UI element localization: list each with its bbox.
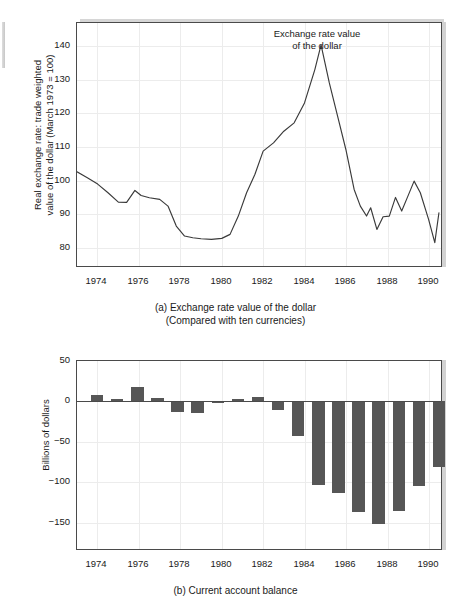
panel-a-line-series bbox=[77, 23, 441, 266]
bar-1986 bbox=[352, 401, 364, 512]
bar-1987 bbox=[372, 401, 384, 524]
panel-a-plot-area bbox=[76, 22, 442, 267]
panel-a-annotation-line1: Exchange rate value bbox=[274, 28, 361, 39]
bar-1984 bbox=[312, 401, 324, 485]
panel-a-xtick-label: 1984 bbox=[281, 276, 327, 286]
panel-b-ytick-label: 0 bbox=[36, 395, 70, 405]
bar-1985 bbox=[332, 401, 344, 493]
panel-b: Billions of dollars 50 0 −50 bbox=[0, 340, 471, 610]
bar-1975 bbox=[131, 387, 143, 401]
panel-a-xtick-label: 1978 bbox=[156, 276, 202, 286]
panel-a: Real exchange rate: trade weighted value… bbox=[0, 0, 471, 340]
bar-1977 bbox=[171, 401, 183, 412]
panel-a-xtick-label: 1976 bbox=[115, 276, 161, 286]
bar-1982 bbox=[272, 401, 284, 410]
panel-b-xtick-label: 1986 bbox=[322, 559, 368, 569]
panel-b-xtick-label: 1990 bbox=[405, 559, 451, 569]
panel-a-xtick-label: 1990 bbox=[405, 276, 451, 286]
panel-b-xtick-label: 1988 bbox=[364, 559, 410, 569]
panel-a-caption-line1: (a) Exchange rate value of the dollar bbox=[155, 302, 316, 313]
panel-a-caption: (a) Exchange rate value of the dollar (C… bbox=[0, 302, 471, 327]
bar-1978 bbox=[191, 401, 203, 413]
panel-b-caption: (b) Current account balance bbox=[0, 585, 471, 598]
panel-b-plot-area bbox=[76, 360, 442, 550]
panel-b-y-axis-title-line1: Billions of dollars bbox=[40, 399, 51, 470]
panel-a-annotation-line2: of the dollar bbox=[292, 40, 342, 51]
bar-1988 bbox=[393, 401, 405, 511]
panel-a-ytick-label: 140 bbox=[42, 40, 70, 50]
panel-b-xtick-label: 1978 bbox=[156, 559, 202, 569]
panel-b-caption-line1: (b) Current account balance bbox=[174, 585, 298, 596]
panel-b-zero-line bbox=[77, 401, 441, 402]
panel-b-xtick-label: 1982 bbox=[239, 559, 285, 569]
panel-a-ytick-label: 90 bbox=[42, 208, 70, 218]
panel-b-xtick-label: 1974 bbox=[73, 559, 119, 569]
bar-1990 bbox=[433, 401, 445, 467]
panel-a-xtick-label: 1988 bbox=[364, 276, 410, 286]
panel-a-caption-line2: (Compared with ten currencies) bbox=[166, 315, 306, 326]
panel-a-ytick-label: 100 bbox=[42, 175, 70, 185]
panel-b-xtick-label: 1984 bbox=[281, 559, 327, 569]
panel-a-xtick-label: 1986 bbox=[322, 276, 368, 286]
panel-a-ytick-label: 130 bbox=[42, 74, 70, 84]
panel-b-xtick-label: 1980 bbox=[198, 559, 244, 569]
panel-b-ytick-label: 50 bbox=[36, 355, 70, 365]
panel-b-bar-series bbox=[77, 361, 441, 549]
panel-b-xtick-label: 1976 bbox=[115, 559, 161, 569]
panel-a-xtick-label: 1982 bbox=[239, 276, 285, 286]
panel-b-ytick-label: −50 bbox=[36, 436, 70, 446]
bar-1983 bbox=[292, 401, 304, 436]
panel-a-ytick-label: 120 bbox=[42, 107, 70, 117]
panel-a-ytick-label: 110 bbox=[42, 141, 70, 151]
panel-a-annotation: Exchange rate value of the dollar bbox=[227, 28, 407, 51]
panel-b-ytick-label: −100 bbox=[36, 476, 70, 486]
panel-a-ytick-label: 80 bbox=[42, 242, 70, 252]
panel-b-ytick-label: −150 bbox=[36, 517, 70, 527]
figure-exchange-rate-and-current-account: Real exchange rate: trade weighted value… bbox=[0, 0, 471, 610]
bar-1989 bbox=[413, 401, 425, 486]
panel-a-xtick-label: 1980 bbox=[198, 276, 244, 286]
panel-a-xtick-label: 1974 bbox=[73, 276, 119, 286]
